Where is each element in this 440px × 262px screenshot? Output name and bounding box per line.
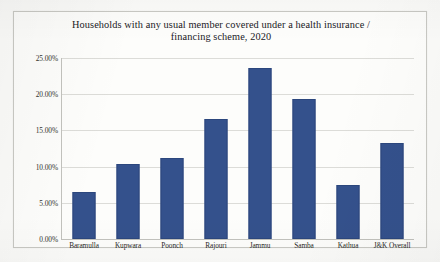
x-label-j-k-overall: J&K Overall: [370, 241, 414, 250]
x-label-poonch: Poonch: [150, 241, 194, 250]
chart-title: Households with any usual member covered…: [40, 19, 402, 44]
x-label-baramulla: Baramulla: [62, 241, 106, 250]
x-axis-line: [62, 239, 414, 240]
bar-j-k-overall[interactable]: [381, 143, 404, 239]
bar-slot: [150, 58, 194, 239]
y-tick-label: 15.00%: [36, 126, 58, 135]
bars-layer: [62, 58, 414, 239]
bar-slot: [62, 58, 106, 239]
bar-poonch[interactable]: [161, 158, 184, 239]
bar-kupwara[interactable]: [117, 164, 140, 239]
bar-jammu[interactable]: [249, 68, 272, 239]
y-tick-label: 5.00%: [39, 198, 58, 207]
x-label-kathua: Kathua: [326, 241, 370, 250]
x-label-jammu: Jammu: [238, 241, 282, 250]
bar-slot: [238, 58, 282, 239]
y-tick-label: 10.00%: [36, 162, 58, 171]
chart-container: Households with any usual member covered…: [13, 11, 427, 248]
bar-slot: [194, 58, 238, 239]
bar-kathua[interactable]: [337, 185, 360, 239]
bar-samba[interactable]: [293, 99, 316, 239]
chart-title-line-1: Households with any usual member covered…: [40, 19, 402, 31]
y-tick-label: 25.00%: [36, 54, 58, 63]
bar-slot: [326, 58, 370, 239]
y-tick-label: 0.00%: [39, 235, 58, 244]
y-tick-label: 20.00%: [36, 90, 58, 99]
x-label-kupwara: Kupwara: [106, 241, 150, 250]
x-label-samba: Samba: [282, 241, 326, 250]
x-axis-category-labels: BaramullaKupwaraPoonchRajouriJammuSambaK…: [62, 241, 414, 255]
bar-rajouri[interactable]: [205, 119, 228, 239]
bar-slot: [282, 58, 326, 239]
bar-slot: [370, 58, 414, 239]
chart-title-line-2: financing scheme, 2020: [40, 31, 402, 43]
bar-slot: [106, 58, 150, 239]
y-axis-tick-labels: 25.00% 20.00% 15.00% 10.00% 5.00% 0.00%: [14, 58, 58, 239]
bar-baramulla[interactable]: [73, 192, 96, 239]
x-label-rajouri: Rajouri: [194, 241, 238, 250]
